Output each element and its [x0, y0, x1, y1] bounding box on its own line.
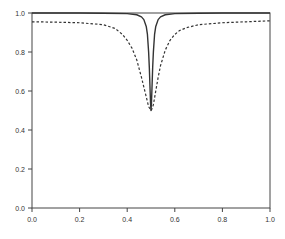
y-tick-label: 0.2 [15, 166, 25, 173]
solid-series-line [32, 13, 270, 111]
x-tick-label: 0.6 [170, 216, 180, 223]
line-chart: 0.00.20.40.60.81.00.00.20.40.60.81.0 [0, 0, 285, 239]
x-tick-label: 0.2 [75, 216, 85, 223]
y-tick-label: 0.8 [15, 49, 25, 56]
x-tick-label: 0.0 [27, 216, 37, 223]
y-tick-label: 0.0 [15, 205, 25, 212]
x-tick-label: 1.0 [265, 216, 275, 223]
y-tick-label: 0.6 [15, 88, 25, 95]
y-tick-label: 0.4 [15, 127, 25, 134]
axes: 0.00.20.40.60.81.00.00.20.40.60.81.0 [15, 10, 275, 224]
series-group [32, 13, 270, 111]
y-tick-label: 1.0 [15, 10, 25, 17]
x-tick-label: 0.8 [218, 216, 228, 223]
x-tick-label: 0.4 [122, 216, 132, 223]
